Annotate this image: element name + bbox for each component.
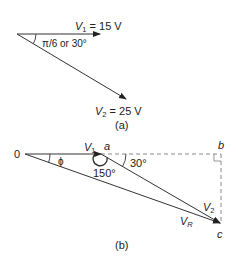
- v2-label-b: V2: [203, 201, 215, 215]
- caption-b: (b): [115, 239, 128, 251]
- point-c-label: c: [217, 228, 223, 240]
- angle-150-label: 150°: [93, 167, 116, 179]
- angle-arc-a: [33, 34, 36, 44]
- part-b-diagram: 0 ϕ V1 a 150° 30° b V2 VR c (b): [14, 139, 224, 251]
- vr-label: VR: [180, 215, 193, 229]
- v1-label-a: V1 = 15 V: [75, 20, 122, 34]
- phi-label: ϕ: [58, 156, 64, 167]
- angle-30-arc: [123, 154, 126, 167]
- v1-label-b: V1: [84, 141, 96, 155]
- phasor-diagram: V1 = 15 V π/6 or 30° V2 = 25 V (a) 0 ϕ V…: [0, 0, 238, 257]
- vr-phasor-b: [25, 154, 220, 223]
- angle-label-a: π/6 or 30°: [42, 38, 87, 49]
- caption-a: (a): [115, 119, 128, 131]
- point-b-label: b: [218, 139, 224, 151]
- origin-label: 0: [14, 148, 20, 160]
- right-angle-mark: [214, 154, 221, 161]
- v2-label-a: V2 = 25 V: [95, 105, 142, 119]
- part-a-diagram: V1 = 15 V π/6 or 30° V2 = 25 V (a): [17, 20, 142, 131]
- angle-30-label: 30°: [130, 157, 147, 169]
- point-a-label: a: [104, 140, 110, 152]
- phi-arc: [49, 154, 50, 162]
